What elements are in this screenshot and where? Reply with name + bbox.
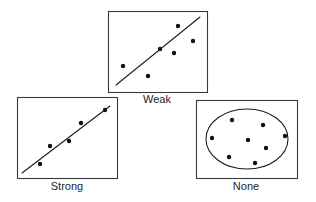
panel-caption-strong: Strong	[51, 180, 83, 192]
data-point	[67, 139, 71, 143]
data-point	[103, 108, 107, 112]
data-point	[261, 123, 265, 127]
data-point	[158, 47, 162, 51]
data-point	[283, 134, 287, 138]
data-point	[172, 51, 176, 55]
data-point	[79, 121, 83, 125]
data-point	[264, 146, 268, 150]
data-point	[227, 155, 231, 159]
data-point	[246, 138, 250, 142]
panel-none: None	[197, 101, 298, 193]
panel-weak: Weak	[109, 12, 208, 106]
data-point	[230, 118, 234, 122]
data-point	[210, 136, 214, 140]
scatterplot-canvas: WeakStrongNone	[0, 0, 316, 202]
data-point	[48, 144, 52, 148]
data-point	[253, 161, 257, 165]
data-point	[176, 24, 180, 28]
data-point	[121, 64, 125, 68]
panel-strong: Strong	[18, 98, 118, 193]
data-point	[146, 74, 150, 78]
data-point	[191, 39, 195, 43]
panel-caption-weak: Weak	[143, 93, 171, 105]
data-point	[38, 162, 42, 166]
panel-frame-weak	[109, 12, 208, 93]
correlation-figure: WeakStrongNone	[0, 0, 316, 202]
panel-caption-none: None	[233, 180, 259, 192]
